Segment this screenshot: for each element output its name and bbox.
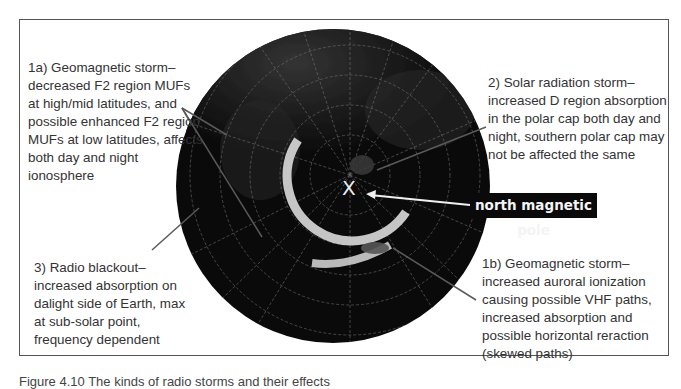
north-magnetic-pole-marker: X [342, 178, 356, 198]
north-magnetic-pole-label: north magnetic pole [470, 193, 597, 218]
note-radio-blackout-3: 3) Radio blackout– increased absorption … [34, 259, 199, 349]
note-geomagnetic-storm-1a: 1a) Geomagnetic storm– decreased F2 regi… [28, 59, 203, 185]
figure-caption: Figure 4.10 The kinds of radio storms an… [19, 374, 330, 389]
note-geomagnetic-storm-1b: 1b) Geomagnetic storm– increased auroral… [482, 255, 667, 363]
note-solar-radiation-storm-2: 2) Solar radiation storm– increased D re… [488, 74, 668, 164]
